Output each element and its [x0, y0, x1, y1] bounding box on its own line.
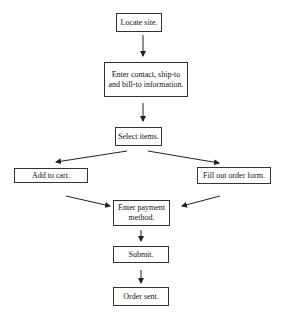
node-select-items: Select items.	[115, 127, 162, 146]
node-label: Fill out order form.	[203, 171, 265, 181]
node-locate-site: Locate site.	[116, 13, 162, 32]
arrow-fillform-to-payment	[182, 196, 220, 206]
node-label: Enter payment method.	[116, 203, 167, 223]
node-label: Submit.	[128, 250, 153, 260]
node-label: Enter contact, ship-to and bill-to infor…	[107, 70, 185, 90]
node-label: Order sent.	[123, 292, 159, 302]
node-enter-payment-method: Enter payment method.	[113, 200, 170, 226]
arrow-select-to-addcart	[56, 151, 127, 162]
node-label: Add to cart.	[32, 171, 70, 181]
arrow-addcart-to-payment	[66, 196, 110, 206]
node-order-sent: Order sent.	[113, 287, 169, 306]
node-add-to-cart: Add to cart.	[14, 168, 88, 183]
node-fill-out-order-form: Fill out order form.	[197, 167, 271, 184]
node-label: Select items.	[118, 132, 159, 142]
node-submit: Submit.	[113, 246, 169, 263]
flowchart-edges	[0, 0, 283, 318]
node-label: Locate site.	[121, 18, 158, 28]
arrow-select-to-fillform	[148, 151, 219, 163]
node-enter-contact: Enter contact, ship-to and bill-to infor…	[104, 62, 188, 97]
